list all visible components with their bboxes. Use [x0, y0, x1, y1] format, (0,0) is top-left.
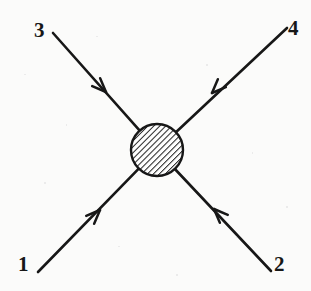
leg-label-3: 3 [34, 20, 45, 41]
leg-label-2: 2 [274, 254, 285, 275]
interaction-blob [131, 124, 183, 176]
leg-label-4: 4 [288, 18, 299, 39]
leg-label-1: 1 [18, 254, 29, 275]
diagram-canvas [0, 0, 311, 291]
feynman-diagram-figure: 3 4 1 2 [0, 0, 311, 291]
